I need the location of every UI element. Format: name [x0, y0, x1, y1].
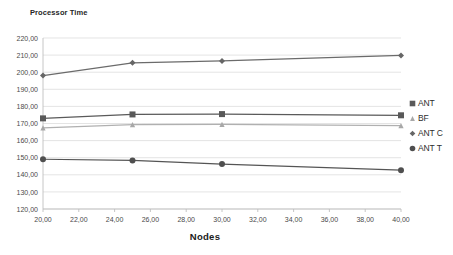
legend-item-label: ANT	[418, 99, 435, 108]
data-point-marker	[410, 146, 416, 152]
data-point-marker	[398, 52, 404, 58]
data-point-marker	[40, 73, 46, 79]
y-tick-label: 190,00	[17, 86, 39, 93]
data-point-marker	[410, 101, 416, 107]
series-bf	[40, 122, 403, 131]
x-tick-label: 22,00	[70, 216, 88, 223]
data-point-marker	[40, 156, 46, 162]
y-tick-label: 160,00	[17, 137, 39, 144]
y-tick-label: 120,00	[17, 206, 39, 213]
data-point-marker	[219, 161, 225, 167]
processor-time-line-chart: Processor Time 120,00130,00140,00150,001…	[0, 0, 453, 255]
x-tick-label: 34,00	[285, 216, 303, 223]
data-point-marker	[40, 115, 46, 121]
legend-item-label: ANT C	[418, 129, 443, 138]
legend-item-ant[interactable]: ANT	[408, 96, 443, 111]
data-point-marker	[130, 111, 136, 117]
y-tick-label: 140,00	[17, 171, 39, 178]
triangle-marker-icon	[408, 114, 417, 123]
data-point-marker	[410, 116, 415, 121]
chart-legend: ANTBFANT CANT T	[408, 96, 443, 156]
y-tick-label: 150,00	[17, 154, 39, 161]
data-point-marker	[410, 131, 416, 137]
data-point-marker	[398, 167, 404, 173]
x-tick-label: 28,00	[177, 216, 195, 223]
plot-area: 120,00130,00140,00150,00160,00170,00180,…	[0, 0, 453, 255]
y-tick-label: 210,00	[17, 52, 39, 59]
y-tick-label: 170,00	[17, 120, 39, 127]
x-tick-label: 26,00	[142, 216, 160, 223]
legend-item-label: ANT T	[418, 144, 442, 153]
y-tick-label: 200,00	[17, 69, 39, 76]
square-marker-icon	[408, 99, 417, 108]
x-tick-label: 24,00	[106, 216, 124, 223]
legend-item-ant-c[interactable]: ANT C	[408, 126, 443, 141]
series-ant-c	[40, 52, 404, 78]
x-tick-label: 38,00	[356, 216, 374, 223]
legend-item-label: BF	[418, 114, 429, 123]
y-tick-label: 130,00	[17, 189, 39, 196]
data-point-marker	[219, 111, 225, 117]
data-point-marker	[130, 60, 136, 66]
y-tick-label: 180,00	[17, 103, 39, 110]
series-ant	[40, 111, 404, 121]
data-point-marker	[398, 112, 404, 118]
x-tick-label: 20,00	[34, 216, 52, 223]
legend-item-bf[interactable]: BF	[408, 111, 443, 126]
x-tick-label: 40,00	[392, 216, 410, 223]
x-axis-title: Nodes	[0, 231, 410, 242]
series-ant-t	[40, 156, 404, 173]
x-tick-label: 30,00	[213, 216, 231, 223]
circle-marker-icon	[408, 144, 417, 153]
legend-item-ant-t[interactable]: ANT T	[408, 141, 443, 156]
data-point-marker	[130, 157, 136, 163]
data-point-marker	[219, 58, 225, 64]
x-tick-label: 32,00	[249, 216, 267, 223]
x-tick-label: 36,00	[321, 216, 339, 223]
y-tick-label: 220,00	[17, 35, 39, 42]
diamond-marker-icon	[408, 129, 417, 138]
